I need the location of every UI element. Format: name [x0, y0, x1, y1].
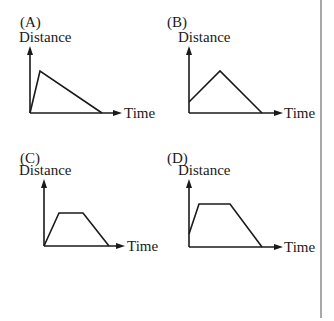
- panel-d-y-arrow-icon: [186, 179, 192, 188]
- panel-a-curve: [30, 71, 102, 113]
- panel-c: (C) Distance Time: [19, 150, 158, 254]
- panel-d: (D) Distance Time: [167, 150, 315, 255]
- panel-c-curve: [44, 213, 109, 246]
- panel-a-y-arrow-icon: [27, 46, 33, 55]
- panel-a-ylabel: Distance: [19, 29, 72, 45]
- panel-a-xlabel: Time: [124, 105, 155, 121]
- panel-d-x-arrow-icon: [274, 244, 283, 250]
- panel-b-ylabel: Distance: [178, 29, 231, 45]
- panel-b-x-arrow-icon: [274, 110, 283, 116]
- panel-c-xlabel: Time: [127, 238, 158, 254]
- panel-d-xlabel: Time: [284, 239, 315, 255]
- panel-b-y-arrow-icon: [186, 46, 192, 55]
- panel-c-x-arrow-icon: [116, 243, 125, 249]
- panel-b-curve: [189, 71, 262, 113]
- distance-time-graphs: (A) Distance Time (B) Distance Time (C) …: [0, 0, 334, 321]
- panel-c-y-arrow-icon: [41, 179, 47, 188]
- panel-d-ylabel: Distance: [178, 162, 231, 178]
- panel-b: (B) Distance Time: [167, 14, 315, 121]
- panel-c-ylabel: Distance: [19, 162, 72, 178]
- panel-a: (A) Distance Time: [19, 14, 155, 121]
- panel-d-curve: [189, 204, 262, 247]
- panel-b-xlabel: Time: [284, 105, 315, 121]
- panel-a-x-arrow-icon: [113, 110, 122, 116]
